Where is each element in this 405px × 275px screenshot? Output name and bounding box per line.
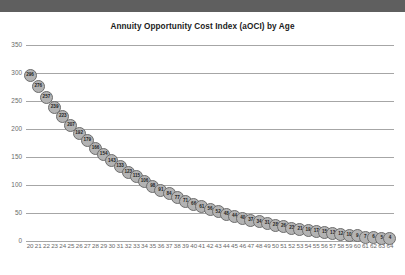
x-axis-tick-label: 46 [239, 243, 246, 249]
x-axis-tick-label: 30 [108, 243, 115, 249]
x-axis-tick-label: 64 [386, 243, 393, 249]
x-axis-tick-label: 49 [264, 243, 271, 249]
data-point-label: 223 [59, 114, 67, 119]
x-axis-tick-label: 21 [35, 243, 42, 249]
gridline [26, 73, 394, 74]
x-axis-tick-label: 35 [149, 243, 156, 249]
x-axis-tick-label: 55 [313, 243, 320, 249]
x-axis-tick-label: 41 [198, 243, 205, 249]
data-point-label: 4 [389, 236, 392, 241]
y-axis-tick-label: 350 [11, 42, 22, 48]
y-axis-tick-label: 0 [18, 238, 22, 244]
data-point-label: 296 [26, 73, 34, 78]
x-axis-tick-label: 45 [231, 243, 238, 249]
chart-title: Annuity Opportunity Cost Index (aOCI) by… [0, 22, 405, 31]
chart-container: Annuity Opportunity Cost Index (aOCI) by… [0, 12, 405, 275]
x-axis-tick-label: 48 [256, 243, 263, 249]
x-axis-tick-label: 44 [223, 243, 230, 249]
x-axis-tick-label: 58 [337, 243, 344, 249]
x-axis-tick-label: 43 [215, 243, 222, 249]
x-axis-tick-label: 38 [174, 243, 181, 249]
x-axis-tick-label: 59 [346, 243, 353, 249]
x-axis-tick-label: 60 [354, 243, 361, 249]
x-axis-tick-label: 57 [329, 243, 336, 249]
x-axis-tick-label: 31 [117, 243, 124, 249]
plot-area: 2962762572392232071921791661541431331231… [26, 45, 394, 241]
y-axis-tick-label: 50 [15, 210, 22, 216]
x-axis-tick-label: 23 [51, 243, 58, 249]
y-axis-tick-label: 250 [11, 98, 22, 104]
data-point-label: 207 [67, 123, 75, 128]
gridline [26, 157, 394, 158]
x-axis-tick-label: 28 [92, 243, 99, 249]
x-axis-tick-label: 33 [133, 243, 140, 249]
x-axis-tick-label: 22 [43, 243, 50, 249]
x-axis-tick-label: 26 [76, 243, 83, 249]
x-axis-tick-label: 40 [190, 243, 197, 249]
x-axis-tick-labels: 2021222324252627282930313233343536373839… [26, 243, 394, 255]
x-axis-tick-label: 29 [100, 243, 107, 249]
page-edge-band [0, 0, 405, 12]
x-axis-tick-label: 63 [378, 243, 385, 249]
data-point-label: 257 [43, 95, 51, 100]
x-axis-tick-label: 27 [84, 243, 91, 249]
x-axis-tick-label: 61 [362, 243, 369, 249]
data-point-label: 179 [83, 138, 91, 143]
y-axis-tick-label: 150 [11, 154, 22, 160]
x-axis-tick-label: 51 [280, 243, 287, 249]
gridline [26, 101, 394, 102]
x-axis-tick-label: 52 [288, 243, 295, 249]
x-axis-tick-label: 56 [321, 243, 328, 249]
x-axis-tick-label: 54 [305, 243, 312, 249]
x-axis-tick-label: 32 [125, 243, 132, 249]
x-axis-tick-label: 34 [141, 243, 148, 249]
x-axis-tick-label: 39 [182, 243, 189, 249]
data-point-label: 239 [51, 105, 59, 110]
y-axis-tick-label: 100 [11, 182, 22, 188]
data-point-label: 276 [34, 84, 42, 89]
x-axis-tick-label: 37 [166, 243, 173, 249]
x-axis-tick-label: 53 [297, 243, 304, 249]
x-axis-tick-label: 36 [157, 243, 164, 249]
gridline [26, 185, 394, 186]
x-axis-tick-label: 47 [247, 243, 254, 249]
x-axis-tick-label: 50 [272, 243, 279, 249]
x-axis-tick-label: 25 [68, 243, 75, 249]
x-axis-tick-label: 20 [27, 243, 34, 249]
y-axis-tick-label: 300 [11, 70, 22, 76]
gridline [26, 45, 394, 46]
x-axis-tick-label: 24 [59, 243, 66, 249]
y-axis-tick-labels: 050100150200250300350 [0, 45, 22, 241]
x-axis-tick-label: 62 [370, 243, 377, 249]
x-axis-tick-label: 42 [207, 243, 214, 249]
y-axis-tick-label: 200 [11, 126, 22, 132]
